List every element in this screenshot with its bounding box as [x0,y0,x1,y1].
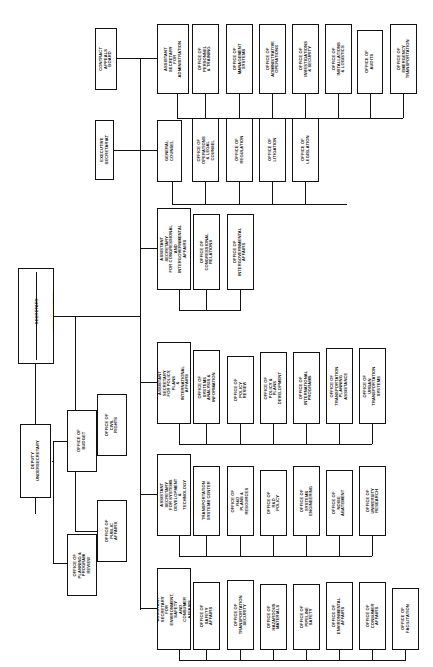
connector-policy-1 [206,424,207,444]
node-office-installations-logistics[interactable]: OFFICE OF INSTALLATIONS & LOGISTICS [325,24,352,94]
node-office-university-research[interactable]: OFFICE OF UNIVERSITY RESEARCH [359,466,386,536]
node-office-congressional-relations[interactable]: OFFICE OF CONGRESSIONAL RELATIONS [193,214,220,290]
connector-admin-7 [403,94,404,118]
connector-asec-congressional [140,248,157,249]
connector-deputy-budget [53,441,67,442]
connector-env-3 [273,650,274,661]
node-office-intergovernmental-affairs[interactable]: OFFICE OF INTERGOVERNMENTAL AFFAIRS [227,214,254,290]
node-label: OFFICE OF R&D POLICY [267,490,281,515]
cong-bus-v [179,290,180,310]
node-asec-systems-dev[interactable]: ASSISTANT SECRETARY FOR SYSTEMS DEVELOPM… [157,454,191,536]
node-office-of-planning[interactable]: OFFICE OF PLANNING & PROGRAM REVIEW [67,534,97,596]
node-asec-environment[interactable]: ASSISTANT SECRETARY FOR ENVIRONMENT, SAF… [157,568,191,650]
node-label: OFFICE OF FACILITATION [401,605,410,634]
node-office-litigation[interactable]: OFFICE OF LITIGATION [259,118,286,182]
connector-public-affairs [75,531,97,532]
node-label: DEPUTY UNDERSECRETARY [31,441,40,482]
node-general-counsel[interactable]: GENERAL COUNSEL [157,120,182,182]
connector-policy-6 [372,424,373,444]
node-office-legislation[interactable]: OFFICE OF LEGISLATION [292,118,319,182]
connector-root-trunk [54,316,140,317]
connector-sysdev-1 [206,536,207,556]
node-office-facilitation[interactable]: OFFICE OF FACILITATION [392,588,419,650]
connector-env-7 [405,650,406,661]
gc-bus-v [172,182,173,204]
node-office-transportation-security[interactable]: OFFICE OF TRANSPORTATION SECURITY [227,580,254,650]
node-label: OFFICE OF PLANNING & PROGRAM REVIEW [73,551,91,579]
node-office-rd-plans-resources[interactable]: OFFICE OF R&D PLANS & RESOURCES [227,466,254,536]
connector-cong-1 [206,290,207,310]
node-office-policy-plans-dev[interactable]: OFFICE OF POLICY & PLANS DEVELOPMENT [260,352,287,424]
lower-trunk [140,316,141,610]
node-office-of-civil-rights[interactable]: OFFICE OF CIVIL RIGHTS [97,394,127,456]
connector-admin-4 [305,94,306,118]
node-label: CONTRACT APPEALS BOARD [99,47,113,71]
connector-admin-2 [239,94,240,118]
connector-env-1 [206,650,207,661]
node-label: OFFICE OF INTERGOVERNMENTAL AFFAIRS [234,228,248,276]
node-label: OFFICE OF LITIGATION [268,138,277,163]
node-office-investigations-security[interactable]: OFFICE OF INVESTIGATIONS & SECURITY [292,24,319,94]
connector-policy-3 [273,424,274,444]
connector-general-counsel [140,150,157,151]
node-office-environmental-affairs[interactable]: OFFICE OF ENVIRONMENTAL AFFAIRS [326,582,353,650]
node-label: ASSISTANT SECRETARY FOR POLICY, PLANS & … [158,366,190,400]
connector-policy-2 [240,424,241,444]
node-label: OFFICE OF HAZARDOUS MATERIALS [267,603,281,630]
connector-root-down [35,364,36,424]
node-executive-secretariat[interactable]: EXECUTIVE SECRETARIAT [95,120,114,180]
node-label: OFFICE OF SYSTEMS ANALYSIS & INFORMATION [197,372,215,402]
node-office-regulation[interactable]: OFFICE OF REGULATION [226,118,253,182]
connector-deputy-planning [53,563,67,564]
node-office-of-budget[interactable]: OFFICE OF BUDGET [67,410,97,472]
connector-env-5 [339,650,340,661]
node-contract-appeals-board[interactable]: CONTRACT APPEALS BOARD [95,28,117,90]
node-label: OFFICE OF OPERATIONS & LEGAL COUNSEL [196,136,214,164]
node-label: UNDERSECRETARY [53,271,54,351]
secretary-divider [36,272,37,360]
connector-policy-5 [339,424,340,444]
node-label: OFFICE OF TRANSPORTATION SECURITY [234,595,248,634]
node-office-hazardous-materials[interactable]: OFFICE OF HAZARDOUS MATERIALS [260,584,287,650]
node-office-rd-policy[interactable]: OFFICE OF R&D POLICY [260,470,287,536]
connector-exec-secretariat [113,150,140,151]
node-office-consumer-affairs[interactable]: OFFICE OF CONSUMER AFFAIRS [359,582,386,650]
connector-sysdev-3 [273,536,274,556]
node-office-personnel-training[interactable]: OFFICE OF PERSONNEL & TRAINING [192,24,219,94]
cong-bus-h [179,310,241,311]
node-label: ASSISTANT SECRETARY FOR SYSTEMS DEVELOPM… [160,479,187,511]
connector-asec-policy [140,382,157,383]
gc-bus-h [172,204,347,205]
node-office-systems-analysis[interactable]: OFFICE OF SYSTEMS ANALYSIS & INFORMATION [193,350,220,424]
node-office-management-systems[interactable]: OFFICE OF MANAGEMENT SYSTEMS [226,24,253,94]
node-office-policy-review[interactable]: OFFICE OF POLICY REVIEW [227,356,254,424]
node-office-noise-abatement[interactable]: OFFICE OF NOISE ABATEMENT [326,470,353,536]
node-office-systems-engineering[interactable]: OFFICE OF SYSTEMS ENGINEERING [293,466,320,536]
node-office-safety-affairs[interactable]: OFFICE OF SAFETY AFFAIRS [193,582,220,650]
node-asec-congressional[interactable]: ASSISTANT SECRETARY FOR CONGRESSIONAL AN… [157,208,191,290]
node-office-operations-legal-counsel[interactable]: OFFICE OF OPERATIONS & LEGAL COUNSEL [192,118,219,182]
node-asec-policy[interactable]: ASSISTANT SECRETARY FOR POLICY, PLANS & … [157,342,191,424]
node-label: OFFICE OF CIVIL RIGHTS [105,411,119,439]
connector-admin-3 [272,94,273,118]
node-label: OFFICE OF SAFETY AFFAIRS [200,603,214,628]
node-label: OFFICE OF SYSTEMS ENGINEERING [300,486,314,516]
node-label: ASSISTANT SECRETARY FOR ENVIRONMENT, SAF… [157,593,191,625]
node-office-pipeline-safety[interactable]: OFFICE OF PIPELINE SAFETY [293,584,320,650]
node-office-emergency-transportation[interactable]: OFFICE OF EMERGENCY TRANSPORTATION [390,24,417,94]
connector-deputy-bus-v [53,441,54,563]
node-office-audits[interactable]: OFFICE OF AUDITS [357,30,383,94]
node-deputy-undersecretary[interactable]: DEPUTY UNDERSECRETARY [20,424,51,498]
node-office-admin-operations[interactable]: OFFICE OF ADMINISTRATIVE OPERATIONS [259,24,286,94]
node-office-international-programs[interactable]: OFFICE OF INTERNATIONAL PROGRAMS [293,352,320,424]
connector-admin-6 [370,94,371,118]
node-office-of-public-affairs[interactable]: OFFICE OF PUBLIC AFFAIRS [97,500,127,562]
node-office-urban-transportation[interactable]: OFFICE OF URBAN TRANSPORTATION SYSTEMS [359,348,386,424]
node-transportation-systems-center[interactable]: TRANSPORTATION SYSTEMS CENTER [193,466,220,536]
policy-bus-v [179,424,180,444]
node-asec-administration[interactable]: ASSISTANT SECRETARY FOR ADMINISTRATION [157,24,189,94]
connector-gc-4 [305,182,306,204]
node-office-transportation-planning[interactable]: OFFICE OF TRANSPORTATION PLANNING ASSIST… [326,348,353,424]
connector-env-2 [240,650,241,661]
node-label: OFFICE OF LEGISLATION [301,136,310,164]
